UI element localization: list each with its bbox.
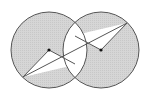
right-center-point bbox=[99, 48, 102, 51]
left-center-point bbox=[47, 48, 50, 51]
two-circles-diagram bbox=[0, 0, 146, 97]
